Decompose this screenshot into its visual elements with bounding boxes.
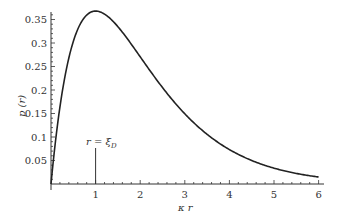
x-tick-label: 2 (137, 189, 143, 200)
x-tick-label: 4 (226, 189, 232, 200)
x-tick-label: 3 (182, 189, 188, 200)
y-tick-label: 0.3 (31, 38, 47, 49)
x-axis-label: κ r (177, 202, 194, 213)
xi-d-annotation: r = ξD (86, 136, 117, 150)
y-tick-label: 0.35 (25, 14, 47, 25)
y-tick-label: 0.25 (25, 61, 47, 72)
curve-p-of-r (51, 11, 319, 184)
y-tick-label: 0.2 (31, 85, 47, 96)
tick-labels: 1234560.050.10.150.20.250.30.35 (25, 14, 322, 200)
x-tick-label: 1 (92, 189, 98, 200)
y-tick-label: 0.15 (25, 108, 47, 119)
x-tick-label: 5 (271, 189, 277, 200)
chart: 1234560.050.10.150.20.250.30.35 r = ξD κ… (0, 0, 339, 220)
y-tick-label: 0.1 (31, 132, 47, 143)
x-tick-label: 6 (315, 189, 321, 200)
y-axis-label: p (r) (16, 95, 27, 117)
y-tick-label: 0.05 (25, 155, 47, 166)
axis-ticks (51, 15, 319, 184)
